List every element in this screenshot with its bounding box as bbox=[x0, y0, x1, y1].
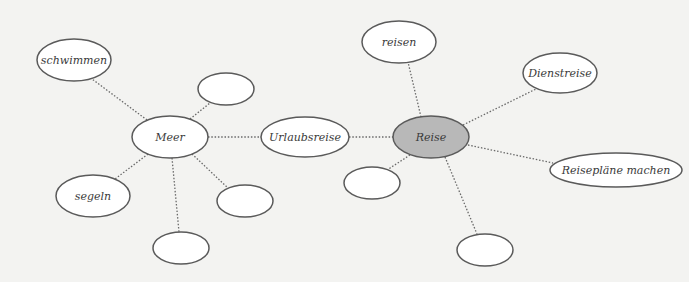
empty-node-ellipse[interactable] bbox=[457, 234, 513, 266]
node-urlaubsreise[interactable]: Urlaubsreise bbox=[261, 117, 349, 157]
edge-meer-empty-meer-top bbox=[190, 103, 210, 119]
node-empty-reise-left[interactable] bbox=[344, 167, 400, 199]
node-reise[interactable]: Reise bbox=[393, 116, 469, 158]
node-label: Dienstreise bbox=[527, 67, 592, 80]
mind-map-diagram: ReiseUrlaubsreiseMeerschwimmensegelnreis… bbox=[0, 0, 689, 282]
node-label: schwimmen bbox=[41, 54, 107, 67]
edge-reise-reiseplaene bbox=[468, 145, 553, 163]
edge-meer-empty-meer-bottom bbox=[172, 158, 179, 232]
node-label: Reise bbox=[415, 131, 447, 144]
node-segeln[interactable]: segeln bbox=[56, 175, 130, 217]
empty-node-ellipse[interactable] bbox=[344, 167, 400, 199]
mind-map-canvas: ReiseUrlaubsreiseMeerschwimmensegelnreis… bbox=[0, 0, 689, 282]
node-schwimmen[interactable]: schwimmen bbox=[37, 39, 111, 81]
node-empty-meer-right[interactable] bbox=[217, 185, 273, 217]
node-label: segeln bbox=[75, 190, 111, 203]
edge-reise-empty-reise-left bbox=[387, 155, 410, 170]
node-reiseplaene[interactable]: Reisepläne machen bbox=[550, 153, 682, 187]
node-label: Reisepläne machen bbox=[561, 164, 671, 177]
edge-reise-reisen bbox=[408, 62, 421, 117]
node-label: Urlaubsreise bbox=[269, 131, 341, 144]
node-label: Meer bbox=[154, 131, 185, 144]
empty-node-ellipse[interactable] bbox=[198, 73, 254, 105]
empty-node-ellipse[interactable] bbox=[153, 232, 209, 264]
node-meer[interactable]: Meer bbox=[132, 116, 208, 158]
edge-reise-empty-reise-bottom bbox=[445, 157, 477, 234]
edge-meer-segeln bbox=[115, 154, 148, 179]
node-reisen[interactable]: reisen bbox=[362, 21, 436, 63]
edge-meer-empty-meer-right bbox=[192, 154, 228, 188]
edge-meer-schwimmen bbox=[92, 79, 147, 120]
node-empty-meer-top[interactable] bbox=[198, 73, 254, 105]
node-empty-reise-bottom[interactable] bbox=[457, 234, 513, 266]
nodes-layer: ReiseUrlaubsreiseMeerschwimmensegelnreis… bbox=[37, 21, 682, 266]
node-dienstreise[interactable]: Dienstreise bbox=[523, 53, 597, 93]
node-label: reisen bbox=[382, 36, 417, 49]
edge-reise-dienstreise bbox=[463, 89, 536, 125]
node-empty-meer-bottom[interactable] bbox=[153, 232, 209, 264]
empty-node-ellipse[interactable] bbox=[217, 185, 273, 217]
